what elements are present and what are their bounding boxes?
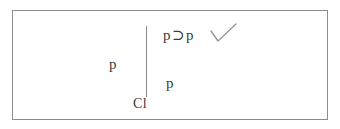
tableau-figure: p⊃p p p Cl: [0, 0, 340, 129]
tableau-branch-line: [146, 26, 147, 97]
root-right-atom: p: [186, 27, 194, 43]
tableau-left-premise: p: [109, 57, 117, 72]
root-left-atom: p: [163, 27, 171, 43]
tableau-root-formula: p⊃p: [163, 28, 194, 43]
tableau-closure-label: Cl: [133, 97, 147, 111]
implication-operator: ⊃: [172, 27, 185, 43]
check-mark-icon: [208, 23, 240, 47]
tableau-branch-node: p: [166, 76, 174, 91]
